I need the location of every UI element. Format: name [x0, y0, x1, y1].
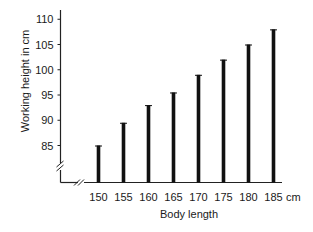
y-axis-title: Working height in cm: [19, 30, 31, 133]
x-tick-label: 150: [89, 191, 107, 203]
bar-150: [97, 146, 101, 183]
y-tick-label: 85: [41, 140, 53, 152]
y-tick-label: 90: [41, 114, 53, 126]
bar-155: [122, 123, 126, 183]
y-tick-label: 95: [41, 89, 53, 101]
bar-160: [147, 105, 151, 182]
y-tick-label: 105: [35, 39, 53, 51]
x-axis-title: Body length: [160, 208, 218, 220]
bar-165: [172, 92, 176, 182]
bar-chart: 859095100105110 150155160165170175180185…: [0, 0, 313, 232]
x-axis-unit: cm: [286, 191, 301, 203]
x-tick-label: 160: [139, 191, 157, 203]
bar-185: [272, 29, 276, 182]
bar-170: [197, 75, 201, 183]
y-tick-label: 100: [35, 64, 53, 76]
bar-180: [247, 45, 251, 183]
x-tick-label: 185: [264, 191, 282, 203]
chart-canvas: 859095100105110 150155160165170175180185…: [0, 0, 313, 232]
bar-series: [95, 29, 277, 182]
bar-175: [222, 60, 226, 183]
x-axis: 150155160165170175180185: [61, 180, 283, 204]
y-axis: 859095100105110: [35, 10, 63, 183]
x-tick-label: 155: [114, 191, 132, 203]
x-tick-label: 170: [189, 191, 207, 203]
x-tick-label: 175: [214, 191, 232, 203]
y-tick-label: 110: [36, 13, 54, 25]
x-tick-label: 180: [239, 191, 257, 203]
x-tick-label: 165: [164, 191, 182, 203]
